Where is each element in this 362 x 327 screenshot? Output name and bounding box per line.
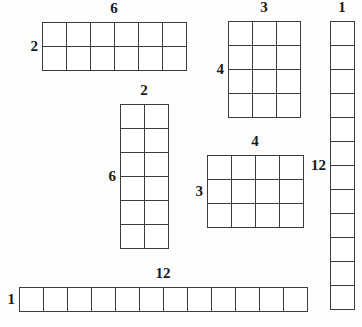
array-3-by-4-grid [207, 155, 304, 228]
array-6-by-2-left-label: 6 [109, 169, 117, 184]
array-2-by-6-top-label: 6 [110, 1, 118, 16]
grid-cell [121, 201, 145, 225]
array-diagram-canvas: 62341122643121 [0, 0, 362, 327]
array-3-by-4-left-label: 3 [196, 184, 204, 199]
grid-cell [139, 23, 163, 47]
grid-cell [253, 94, 277, 118]
array-4-by-3-left-label: 4 [217, 62, 225, 77]
grid-cell [331, 94, 355, 118]
grid-cell [280, 204, 304, 228]
grid-cell [331, 118, 355, 142]
grid-cell [164, 288, 188, 312]
grid-cell [20, 288, 44, 312]
grid-cell [229, 22, 253, 46]
grid-cell [256, 180, 280, 204]
grid-cell [163, 23, 187, 47]
grid-cell [208, 156, 232, 180]
grid-cell [67, 23, 91, 47]
grid-cell [331, 238, 355, 262]
grid-cell [253, 46, 277, 70]
array-1-by-12-left-label: 1 [8, 292, 16, 307]
grid-cell [229, 46, 253, 70]
grid-cell [44, 288, 68, 312]
grid-cell [256, 204, 280, 228]
grid-cell [277, 94, 301, 118]
array-4-by-3-grid [228, 21, 301, 118]
array-12-by-1-left-label: 12 [311, 158, 326, 173]
grid-cell [163, 47, 187, 71]
grid-cell [229, 94, 253, 118]
grid-cell [331, 214, 355, 238]
array-3-by-4-top-label: 4 [251, 134, 259, 149]
grid-cell [115, 23, 139, 47]
grid-cell [232, 180, 256, 204]
grid-cell [253, 22, 277, 46]
grid-cell [43, 47, 67, 71]
grid-cell [331, 166, 355, 190]
grid-cell [139, 47, 163, 71]
grid-cell [121, 177, 145, 201]
grid-cell [68, 288, 92, 312]
grid-cell [232, 204, 256, 228]
grid-cell [284, 288, 308, 312]
grid-cell [331, 70, 355, 94]
grid-cell [145, 129, 169, 153]
grid-cell [115, 47, 139, 71]
array-1-by-12-grid [19, 287, 308, 312]
grid-cell [331, 22, 355, 46]
grid-cell [121, 129, 145, 153]
grid-cell [91, 47, 115, 71]
grid-cell [208, 204, 232, 228]
grid-cell [331, 286, 355, 310]
grid-cell [145, 201, 169, 225]
grid-cell [116, 288, 140, 312]
grid-cell [280, 180, 304, 204]
grid-cell [256, 156, 280, 180]
grid-cell [277, 70, 301, 94]
grid-cell [232, 156, 256, 180]
array-2-by-6-grid [42, 22, 187, 71]
array-2-by-6-left-label: 2 [31, 39, 39, 54]
grid-cell [121, 225, 145, 249]
grid-cell [331, 46, 355, 70]
grid-cell [67, 47, 91, 71]
grid-cell [229, 70, 253, 94]
grid-cell [280, 156, 304, 180]
array-1-by-12-top-label: 12 [156, 266, 171, 281]
grid-cell [145, 225, 169, 249]
array-6-by-2-top-label: 2 [140, 83, 148, 98]
grid-cell [145, 105, 169, 129]
grid-cell [253, 70, 277, 94]
grid-cell [331, 262, 355, 286]
grid-cell [145, 177, 169, 201]
grid-cell [236, 288, 260, 312]
grid-cell [188, 288, 212, 312]
grid-cell [91, 23, 115, 47]
array-12-by-1-grid [330, 21, 355, 310]
grid-cell [277, 22, 301, 46]
array-6-by-2-grid [120, 104, 169, 249]
grid-cell [277, 46, 301, 70]
grid-cell [140, 288, 164, 312]
array-12-by-1-top-label: 1 [338, 0, 346, 15]
grid-cell [260, 288, 284, 312]
grid-cell [208, 180, 232, 204]
grid-cell [331, 190, 355, 214]
grid-cell [92, 288, 116, 312]
grid-cell [43, 23, 67, 47]
grid-cell [145, 153, 169, 177]
array-4-by-3-top-label: 3 [260, 0, 268, 15]
grid-cell [331, 142, 355, 166]
grid-cell [121, 153, 145, 177]
grid-cell [121, 105, 145, 129]
grid-cell [212, 288, 236, 312]
